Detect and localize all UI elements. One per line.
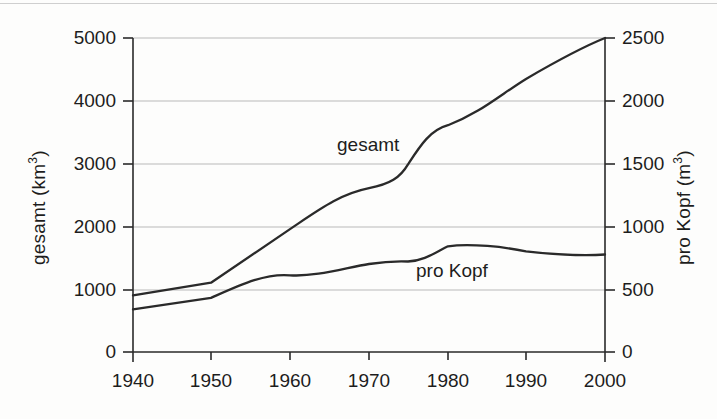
y-axis-right-title: pro Kopf (m3) — [671, 108, 694, 308]
series-label-gesamt: gesamt — [337, 134, 399, 156]
series-line-pro-kopf — [133, 245, 605, 309]
y-tick-right-500: 500 — [622, 279, 700, 301]
y-tick-left-0: 0 — [38, 341, 116, 363]
x-tick-1950: 1950 — [171, 370, 251, 392]
x-tick-1980: 1980 — [408, 370, 488, 392]
y-tick-left-3000: 3000 — [38, 153, 116, 175]
chart-figure: gesamt (km3) pro Kopf (m3) 5000 4000 300… — [0, 0, 717, 419]
x-tick-1990: 1990 — [486, 370, 566, 392]
y-tick-left-1000: 1000 — [38, 279, 116, 301]
y-tick-right-2500: 2500 — [622, 27, 700, 49]
y-tick-right-1500: 1500 — [622, 153, 700, 175]
y-axis-left-title: gesamt (km3) — [26, 108, 49, 308]
x-tick-1970: 1970 — [329, 370, 409, 392]
x-tick-1960: 1960 — [250, 370, 330, 392]
y-tick-right-1000: 1000 — [622, 216, 700, 238]
y-tick-left-4000: 4000 — [38, 90, 116, 112]
y-tick-right-0: 0 — [622, 341, 700, 363]
series-label-pro-kopf: pro Kopf — [416, 260, 488, 282]
y-axis-left-ticks — [123, 38, 133, 352]
x-tick-2000: 2000 — [565, 370, 645, 392]
x-tick-1940: 1940 — [93, 370, 173, 392]
series-line-gesamt — [133, 38, 605, 295]
y-axis-right-ticks — [605, 38, 615, 352]
y-tick-left-5000: 5000 — [38, 27, 116, 49]
y-tick-left-2000: 2000 — [38, 216, 116, 238]
y-tick-right-2000: 2000 — [622, 90, 700, 112]
x-axis-ticks — [133, 352, 605, 362]
